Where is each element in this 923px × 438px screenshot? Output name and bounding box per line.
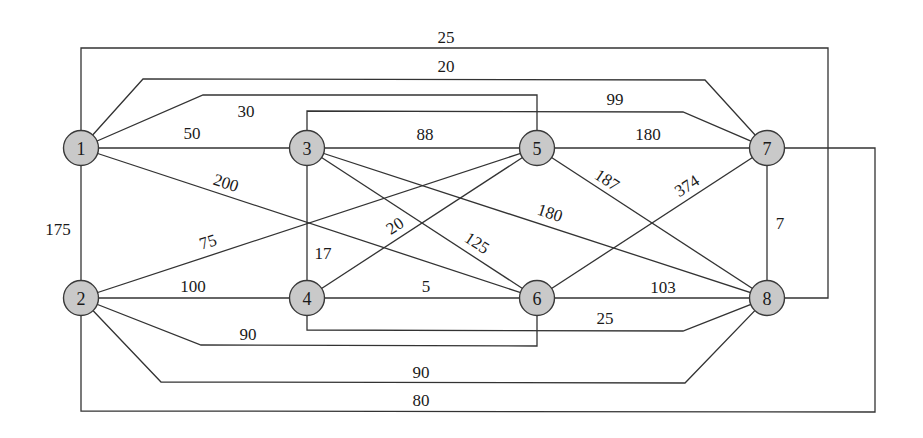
node-label: 5 bbox=[533, 139, 542, 159]
edge-weight-label: 75 bbox=[197, 230, 219, 253]
node-7: 7 bbox=[750, 131, 785, 166]
edge-weight-label: 5 bbox=[422, 277, 431, 296]
edge-weight-label: 90 bbox=[240, 325, 257, 344]
node-3: 3 bbox=[290, 131, 325, 166]
edge-weight-label: 99 bbox=[607, 90, 624, 109]
node-4: 4 bbox=[290, 281, 325, 316]
node-2: 2 bbox=[64, 281, 99, 316]
edge-3-8 bbox=[307, 148, 767, 298]
edge-weight-label: 25 bbox=[597, 309, 614, 328]
node-label: 7 bbox=[763, 139, 772, 159]
edge-weight-label: 175 bbox=[45, 220, 71, 239]
edge-weight-label: 7 bbox=[776, 214, 785, 233]
edge-weight-label: 25 bbox=[438, 28, 455, 47]
node-8: 8 bbox=[750, 281, 785, 316]
edge-weight-label: 90 bbox=[413, 363, 430, 382]
node-label: 8 bbox=[763, 289, 772, 309]
graph-diagram: 2520305020017599881801712518075201873747… bbox=[0, 0, 923, 438]
node-label: 2 bbox=[77, 289, 86, 309]
edge-weight-label: 50 bbox=[184, 124, 201, 143]
edge-weight-label: 80 bbox=[413, 391, 430, 410]
edge-weight-label: 180 bbox=[635, 125, 661, 144]
node-label: 3 bbox=[303, 139, 312, 159]
node-1: 1 bbox=[64, 131, 99, 166]
edges-layer bbox=[81, 48, 875, 412]
edge-weight-label: 30 bbox=[238, 102, 255, 121]
node-5: 5 bbox=[520, 131, 555, 166]
node-6: 6 bbox=[520, 281, 555, 316]
edge-weight-label: 125 bbox=[461, 228, 493, 258]
edge-weight-label: 100 bbox=[180, 277, 206, 296]
edge-weight-label: 103 bbox=[650, 278, 676, 297]
node-label: 6 bbox=[533, 289, 542, 309]
edge-weight-label: 374 bbox=[671, 171, 703, 201]
edge-weight-label: 20 bbox=[438, 57, 455, 76]
node-label: 1 bbox=[77, 139, 86, 159]
edge-weight-label: 17 bbox=[315, 244, 333, 263]
edge-weight-label: 88 bbox=[417, 125, 434, 144]
edge-weight-label: 187 bbox=[591, 165, 623, 195]
edge-weight-label: 180 bbox=[535, 200, 565, 226]
node-label: 4 bbox=[303, 289, 312, 309]
